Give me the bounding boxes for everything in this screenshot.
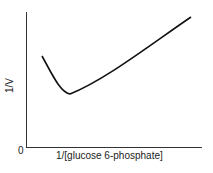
x-axis-label: 1/[glucose 6-phosphate] xyxy=(56,150,163,161)
chart-canvas xyxy=(0,0,213,173)
y-axis-label: 1/V xyxy=(4,78,15,93)
origin-label: 0 xyxy=(18,145,24,156)
data-curve xyxy=(42,17,191,94)
